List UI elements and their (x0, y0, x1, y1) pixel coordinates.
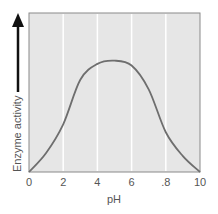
y-axis-arrow-icon (12, 13, 24, 92)
x-tick-label: 4 (94, 176, 100, 188)
plot-area (29, 13, 200, 172)
x-tick-label: 10 (194, 176, 206, 188)
x-axis-label: pH (107, 193, 121, 205)
x-tick-label: 6 (129, 176, 135, 188)
x-tick-label: 0 (26, 176, 32, 188)
x-axis-ticks: 0246.810 (26, 176, 206, 188)
x-tick-label: .8 (161, 176, 170, 188)
y-axis-label: Enzyme activity (11, 95, 23, 172)
chart: 0246.810 pH Enzyme activity (0, 0, 218, 214)
x-tick-label: 2 (60, 176, 66, 188)
